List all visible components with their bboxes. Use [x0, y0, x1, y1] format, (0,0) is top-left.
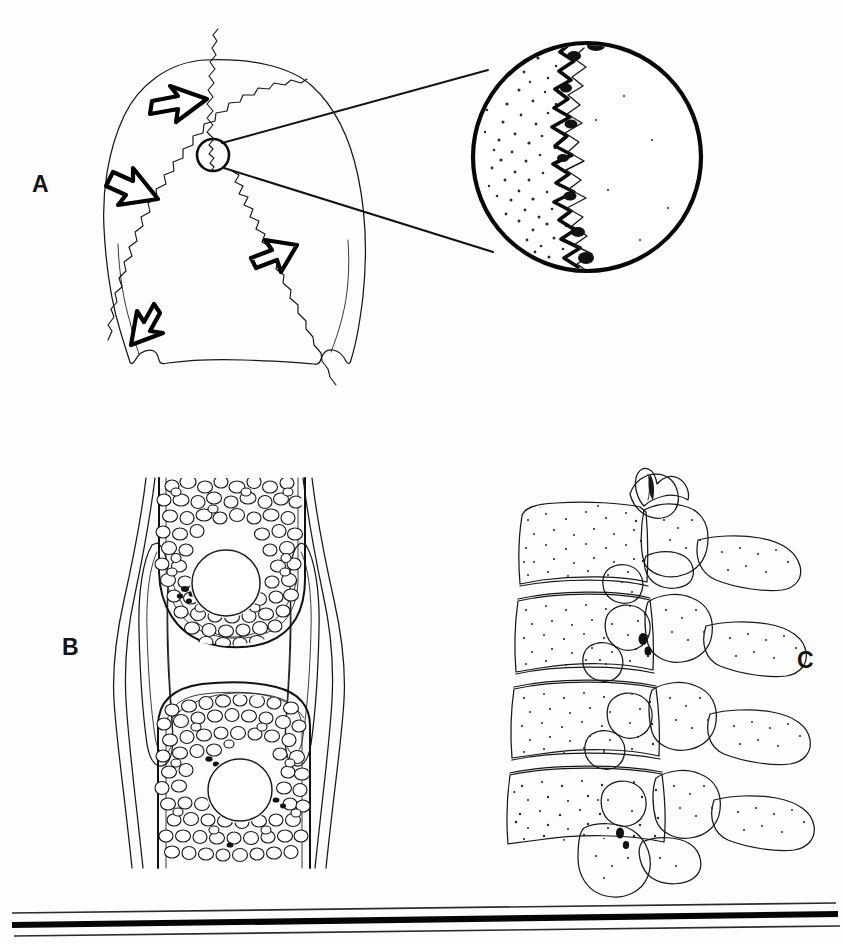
panel-label-a: A: [32, 171, 49, 197]
disc-space-2b: [514, 680, 656, 687]
trabecular-bone-distal: [155, 694, 310, 862]
articular-nub-2: [583, 643, 623, 682]
vertebral-body-4: [507, 768, 665, 844]
spinous-process-3: [708, 710, 811, 765]
suture-right-branch: [232, 171, 336, 385]
lytic-lesion-proximal: [190, 548, 262, 618]
vertebra-stipple-2: [523, 604, 649, 666]
inset-leader-lines: [222, 70, 493, 252]
panel-a-group: A: [32, 29, 706, 385]
spinous-process-4: [712, 796, 815, 851]
arrow-suture-sagittal: [150, 86, 207, 122]
inferior-process-tip: [578, 824, 650, 897]
facet-joint-4: [601, 781, 646, 826]
arrow-suture-right-lambdoid: [251, 240, 297, 272]
vertebra-stipple-1: [523, 505, 644, 577]
panel-c-group: C: [507, 468, 814, 897]
panel-b-group: B: [62, 476, 345, 869]
lytic-lesion-distal: [206, 757, 274, 823]
scan-rule-bottom: [14, 926, 840, 936]
panel-label-b: B: [62, 634, 79, 660]
posterior-element-stipple: [595, 519, 805, 879]
pedicle-2: [645, 595, 712, 663]
superior-crest-dark: [649, 474, 654, 500]
arrow-suture-left-lambdoid: [106, 168, 158, 205]
scan-rule-middle: [12, 914, 838, 925]
spinous-process-2: [704, 622, 807, 677]
figure-canvas: A: [0, 0, 843, 944]
anatomical-figure: A: [0, 0, 843, 944]
transverse-process-1: [644, 552, 693, 589]
spinous-process-1: [697, 536, 801, 591]
skull-inner-right-edge: [331, 240, 349, 352]
superior-crest: [635, 468, 688, 506]
footer-scan-rules: [12, 903, 840, 936]
vertebra-stipple-4: [513, 780, 660, 841]
magnification-inset: [470, 40, 706, 276]
inferior-process-tip-2: [639, 838, 701, 884]
facet-joint-3: [607, 693, 652, 738]
vertebra-stipple-3: [521, 692, 654, 754]
arrow-suture-occipital: [131, 304, 163, 345]
disc-space-3b: [510, 766, 662, 773]
scan-rule-top: [12, 903, 836, 913]
roi-marker-suture: [209, 140, 214, 171]
